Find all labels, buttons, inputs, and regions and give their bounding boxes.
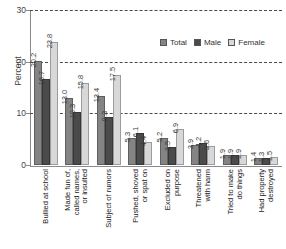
x-category-text: Subject of rumors <box>105 169 114 228</box>
x-category-label: Excluded on purpose <box>156 169 188 249</box>
bar-rect <box>239 155 247 165</box>
bar-total[interactable]: 13.0 <box>65 10 73 165</box>
bar-rect <box>50 42 58 165</box>
bar-male[interactable]: 6.1 <box>136 10 144 165</box>
bar-group: 5.36.14.4 <box>125 10 157 165</box>
x-category-text: Bullied at school <box>42 169 51 224</box>
y-tick-mark <box>26 165 30 166</box>
bar-male[interactable]: 9.3 <box>105 10 113 165</box>
bar-total[interactable]: 20.2 <box>34 10 42 165</box>
bar-male[interactable]: 1.9 <box>231 10 239 165</box>
bar-male[interactable]: 10.3 <box>73 10 81 165</box>
bar-rect <box>105 117 113 165</box>
bar-rect <box>113 75 121 165</box>
bar-female[interactable]: 1.9 <box>239 10 247 165</box>
legend-item-total[interactable]: Total <box>160 38 187 47</box>
bar-rect <box>73 112 81 165</box>
bar-group: 13.010.315.8 <box>62 10 94 165</box>
bar-rect <box>34 61 42 165</box>
y-axis-label: Percent <box>13 31 23 111</box>
bar-rect <box>191 145 199 165</box>
bar-total[interactable]: 13.4 <box>97 10 105 165</box>
bar-female[interactable]: 1.5 <box>270 10 278 165</box>
bar-female[interactable]: 23.8 <box>50 10 58 165</box>
bar-group: 1.41.31.5 <box>251 10 283 165</box>
bar-total[interactable]: 1.9 <box>223 10 231 165</box>
bar-rect <box>270 157 278 165</box>
x-category-text: Tried to make do things <box>226 169 243 215</box>
bar-female[interactable]: 6.9 <box>176 10 184 165</box>
legend-swatch-icon <box>194 39 201 46</box>
bar-rect <box>207 146 215 165</box>
bar-group: 13.49.317.5 <box>93 10 125 165</box>
x-category-text: Threatened with harm <box>195 169 212 207</box>
bar-total[interactable]: 1.4 <box>254 10 262 165</box>
bar-rect <box>42 79 50 165</box>
bar-rect <box>128 138 136 165</box>
bar-female[interactable]: 3.6 <box>207 10 215 165</box>
bar-female[interactable]: 15.8 <box>81 10 89 165</box>
x-category-label: Subject of rumors <box>93 169 125 249</box>
y-tick-label: 30 <box>17 5 26 15</box>
legend-item-female[interactable]: Female <box>228 38 265 47</box>
bar-rect <box>254 158 262 165</box>
bar-rect <box>199 143 207 165</box>
bar-group: 5.23.56.9 <box>156 10 188 165</box>
x-category-text: Excluded on purpose <box>163 169 180 210</box>
y-tick-label: 10 <box>17 108 26 118</box>
legend-item-male[interactable]: Male <box>194 38 221 47</box>
x-axis-line <box>30 166 282 167</box>
legend-swatch-icon <box>228 39 235 46</box>
bar-rect <box>65 98 73 165</box>
bar-rect <box>81 83 89 165</box>
bar-group: 1.91.91.9 <box>219 10 251 165</box>
bar-total[interactable]: 5.2 <box>160 10 168 165</box>
legend-label: Female <box>238 38 265 47</box>
bar-groups: 20.216.723.813.010.315.813.49.317.55.36.… <box>30 10 282 165</box>
x-category-label: Tried to make do things <box>219 169 251 249</box>
bar-rect <box>231 155 239 165</box>
bar-rect <box>262 158 270 165</box>
x-category-label: Bullied at school <box>30 169 62 249</box>
bar-rect <box>223 155 231 165</box>
x-category-label: Pushed, shoved or spat on <box>125 169 157 249</box>
bar-group: 3.94.23.6 <box>188 10 220 165</box>
bar-total[interactable]: 3.9 <box>191 10 199 165</box>
legend-label: Total <box>170 38 187 47</box>
bar-female[interactable]: 4.4 <box>144 10 152 165</box>
plot-area: 0102030 20.216.723.813.010.315.813.49.31… <box>30 10 282 165</box>
legend-label: Male <box>204 38 221 47</box>
x-category-text: Pushed, shoved or spat on <box>132 169 149 223</box>
bar-rect <box>160 138 168 165</box>
x-category-text: Had property destroyed <box>258 169 275 212</box>
bar-total[interactable]: 5.3 <box>128 10 136 165</box>
bar-rect <box>168 147 176 165</box>
bar-male[interactable]: 4.2 <box>199 10 207 165</box>
x-axis-labels: Bullied at schoolMade fun of, called nam… <box>30 169 282 249</box>
bar-male[interactable]: 3.5 <box>168 10 176 165</box>
bar-group: 20.216.723.8 <box>30 10 62 165</box>
bar-male[interactable]: 16.7 <box>42 10 50 165</box>
chart-title <box>30 0 280 3</box>
x-category-text: Made fun of, called names, or insulted <box>65 169 91 215</box>
y-tick-label: 20 <box>17 57 26 67</box>
legend-swatch-icon <box>160 39 167 46</box>
bar-chart: Percent 0102030 20.216.723.813.010.315.8… <box>0 0 286 249</box>
x-category-label: Made fun of, called names, or insulted <box>62 169 94 249</box>
bar-female[interactable]: 17.5 <box>113 10 121 165</box>
bar-rect <box>97 96 105 165</box>
bar-rect <box>136 133 144 165</box>
x-category-label: Threatened with harm <box>188 169 220 249</box>
bar-male[interactable]: 1.3 <box>262 10 270 165</box>
bar-rect <box>176 129 184 165</box>
bar-rect <box>144 142 152 165</box>
x-category-label: Had property destroyed <box>251 169 283 249</box>
legend: TotalMaleFemale <box>160 38 265 47</box>
